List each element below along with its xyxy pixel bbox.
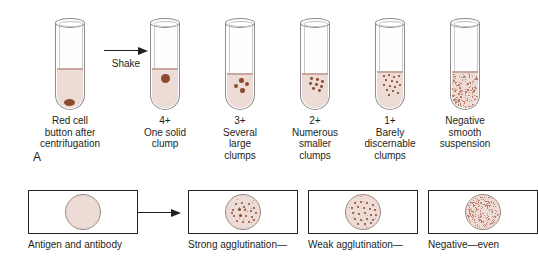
suspension-particle — [487, 217, 488, 218]
agglutination-clump — [241, 202, 244, 205]
agglutination-speck — [391, 80, 393, 82]
suspension-particle — [372, 205, 373, 206]
agglutination-clump — [363, 207, 365, 209]
tube-rim-inner-icon — [379, 21, 403, 27]
suspension-particle — [470, 106, 471, 107]
agglutination-clump — [161, 74, 170, 83]
suspension-particle — [454, 74, 455, 75]
agglutination-clump — [357, 206, 359, 208]
suspension-particle — [455, 99, 456, 100]
suspension-particle — [471, 100, 472, 101]
agglutination-clump — [310, 77, 313, 80]
suspension-particle — [483, 221, 484, 222]
suspension-particle — [461, 94, 462, 95]
suspension-particle — [496, 211, 497, 212]
agglutination-speck — [398, 75, 400, 77]
suspension-particle — [493, 219, 494, 220]
suspension-particle — [488, 216, 489, 217]
suspension-particle — [461, 92, 462, 93]
agglutination-clump — [354, 218, 356, 220]
red-cell-button — [64, 99, 75, 106]
suspension-particle — [373, 205, 374, 206]
agglutination-clump — [370, 222, 372, 224]
suspension-particle — [471, 209, 472, 210]
slide-column-negative: Negative—even — [428, 190, 538, 251]
suspension-particle — [483, 213, 484, 214]
agglutination-clump — [360, 201, 362, 203]
tube-glass-body — [225, 23, 255, 110]
agglutination-clump — [366, 218, 368, 220]
suspension-particle — [453, 80, 454, 81]
suspension-particle — [469, 95, 470, 96]
suspension-particle — [485, 201, 486, 202]
suspension-particle — [475, 203, 476, 204]
suspension-particle — [458, 102, 459, 103]
suspension-particle — [463, 76, 464, 77]
tube-rim-inner-icon — [304, 21, 328, 27]
suspension-particle — [495, 213, 496, 214]
slide-column-weak-agglutination: Weak agglutination— — [308, 190, 418, 251]
tube-caption: Negative smooth suspension — [417, 115, 513, 150]
agglutination-clump — [315, 83, 318, 86]
agglutination-clump — [370, 214, 372, 216]
suspension-particle — [247, 211, 248, 212]
suspension-particle — [460, 83, 461, 84]
suspension-particle — [475, 222, 476, 223]
agglutination-clump — [248, 203, 251, 206]
tube-fluid — [302, 73, 328, 108]
tube-caption: Red cell button after centrifugation — [22, 115, 118, 150]
agglutination-clump — [309, 82, 312, 85]
suspension-particle — [469, 219, 470, 220]
agglutination-speck — [386, 89, 388, 91]
test-tube-3-plus — [225, 18, 255, 110]
slide-caption: Strong agglutination— — [188, 239, 298, 251]
agglutination-clump — [351, 207, 353, 209]
smooth-suspension-texture — [452, 73, 478, 109]
suspension-particle — [483, 204, 484, 205]
tube-glass-body — [450, 23, 480, 110]
suspension-particle — [465, 81, 466, 82]
suspension-particle — [353, 217, 354, 218]
agglutination-clump — [372, 219, 374, 221]
suspension-particle — [478, 209, 479, 210]
suspension-particle — [468, 205, 469, 206]
slide-box — [308, 190, 418, 234]
agglutination-clump — [239, 214, 242, 217]
suspension-particle — [477, 98, 478, 99]
suspension-particle — [476, 210, 477, 211]
fluid-meniscus — [377, 71, 403, 72]
suspension-particle — [476, 96, 477, 97]
suspension-particle — [482, 221, 483, 222]
agglutination-clump — [251, 216, 254, 219]
suspension-particle — [455, 103, 456, 104]
agglutination-clump — [250, 210, 253, 213]
suspension-particle — [453, 74, 454, 75]
reaction-drop-strong — [225, 194, 261, 230]
agglutination-clump — [242, 221, 245, 224]
suspension-particle — [488, 197, 489, 198]
test-tube-2-plus — [300, 18, 330, 110]
suspension-particle — [469, 76, 470, 77]
suspension-particle — [366, 227, 367, 228]
tube-glass-body — [150, 23, 180, 110]
suspension-particle — [475, 214, 476, 215]
suspension-particle — [474, 90, 475, 91]
suspension-particle — [472, 76, 473, 77]
suspension-particle — [455, 76, 456, 77]
agglutination-clump — [239, 78, 244, 83]
suspension-particle — [495, 217, 496, 218]
agglutination-clump — [364, 212, 366, 214]
suspension-particle — [362, 220, 363, 221]
suspension-particle — [469, 101, 470, 102]
suspension-particle — [479, 219, 480, 220]
agglutination-clump — [357, 223, 359, 225]
agglutination-clump — [374, 209, 376, 211]
suspension-particle — [480, 211, 481, 212]
suspension-particle — [465, 106, 466, 107]
panel-b-slide-agglutination-series: Antigen and antibody Strong agglutinatio… — [0, 190, 530, 261]
suspension-particle — [464, 103, 465, 104]
agglutination-speck — [396, 81, 398, 83]
suspension-particle — [477, 226, 478, 227]
suspension-particle — [487, 207, 488, 208]
suspension-particle — [236, 221, 237, 222]
